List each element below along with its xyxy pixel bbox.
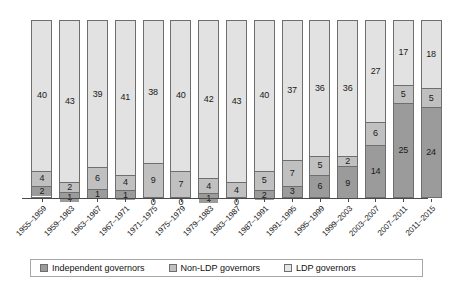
bar-column: 3773 <box>278 20 306 198</box>
tick-mark <box>181 199 182 202</box>
segment-value-label: 7 <box>290 169 295 178</box>
segment-value-label: 5 <box>262 176 267 185</box>
stacked-bar[interactable]: 4070 <box>170 20 191 198</box>
tick-mark <box>292 199 293 202</box>
bar-column: 3961 <box>84 20 112 198</box>
legend-item[interactable]: Independent governors <box>40 263 145 273</box>
segment-ldp: 40 <box>255 21 274 171</box>
stacked-bar[interactable]: 4321 <box>59 20 80 198</box>
bar-column: 17525 <box>389 20 417 198</box>
segment-value-label: 2 <box>345 157 350 166</box>
segment-value-label: 43 <box>232 97 242 106</box>
segment-value-label: 27 <box>371 67 381 76</box>
segment-value-label: 3 <box>290 187 295 196</box>
segment-non-ldp: 5 <box>394 85 413 104</box>
segment-value-label: 43 <box>65 97 75 106</box>
legend-label: Independent governors <box>52 263 145 273</box>
tick-mark <box>125 199 126 202</box>
tick-mark <box>42 199 43 202</box>
segment-value-label: 9 <box>345 179 350 188</box>
segment-ldp: 39 <box>88 21 107 167</box>
legend-label: LDP governors <box>296 263 356 273</box>
segment-value-label: 6 <box>95 174 100 183</box>
stacked-bar[interactable]: 3773 <box>282 20 303 198</box>
x-axis-tick: 2011–2015 <box>417 199 445 255</box>
legend-swatch-nonldp <box>169 264 177 272</box>
segment-independent: 14 <box>366 145 385 197</box>
segment-value-label: 14 <box>371 167 381 176</box>
stacked-bar[interactable]: 4241 <box>198 20 219 198</box>
segment-value-label: 5 <box>429 94 434 103</box>
tick-mark <box>348 199 349 202</box>
stacked-bar[interactable]: 27614 <box>365 20 386 198</box>
bar-column: 3890 <box>139 20 167 198</box>
stacked-bar[interactable]: 4042 <box>31 20 52 198</box>
segment-ldp: 17 <box>394 21 413 85</box>
segment-non-ldp: 5 <box>422 88 441 107</box>
segment-value-label: 18 <box>426 50 436 59</box>
segment-ldp: 36 <box>310 21 329 156</box>
legend-item[interactable]: Non-LDP governors <box>169 263 260 273</box>
stacked-bar[interactable]: 18524 <box>421 20 442 198</box>
segment-value-label: 40 <box>259 91 269 100</box>
bar-column: 4052 <box>250 20 278 198</box>
stacked-bar[interactable]: 3656 <box>309 20 330 198</box>
segment-independent: 24 <box>422 107 441 197</box>
segment-value-label: 41 <box>120 93 130 102</box>
tick-mark <box>375 199 376 202</box>
segment-value-label: 4 <box>234 186 239 195</box>
stacked-bar[interactable]: 4340 <box>226 20 247 198</box>
stacked-bar[interactable]: 4141 <box>115 20 136 198</box>
bar-group: 4042432139614141389040704241434040523773… <box>28 20 446 198</box>
segment-value-label: 38 <box>148 88 158 97</box>
bar-column: 3629 <box>334 20 362 198</box>
segment-ldp: 40 <box>171 21 190 171</box>
tick-mark <box>236 199 237 202</box>
segment-ldp: 42 <box>199 21 218 178</box>
segment-value-label: 2 <box>39 187 44 196</box>
segment-non-ldp: 9 <box>144 163 163 197</box>
segment-value-label: 39 <box>93 90 103 99</box>
tick-mark <box>264 199 265 202</box>
segment-non-ldp: 7 <box>283 160 302 186</box>
segment-value-label: 37 <box>287 86 297 95</box>
segment-non-ldp: 5 <box>255 171 274 190</box>
tick-mark <box>403 199 404 202</box>
segment-non-ldp: 4 <box>116 175 135 190</box>
segment-non-ldp: 4 <box>32 171 51 186</box>
segment-ldp: 27 <box>366 21 385 122</box>
segment-value-label: 24 <box>426 148 436 157</box>
stacked-bar[interactable]: 3961 <box>87 20 108 198</box>
segment-non-ldp: 4 <box>227 182 246 197</box>
bar-column: 4321 <box>56 20 84 198</box>
segment-ldp: 36 <box>338 21 357 156</box>
segment-value-label: 6 <box>317 182 322 191</box>
bar-column: 4141 <box>111 20 139 198</box>
stacked-bar[interactable]: 3629 <box>337 20 358 198</box>
segment-ldp: 38 <box>144 21 163 163</box>
segment-ldp: 37 <box>283 21 302 160</box>
segment-non-ldp: 7 <box>171 171 190 197</box>
segment-non-ldp: 6 <box>366 122 385 144</box>
bar-column: 18524 <box>417 20 445 198</box>
plot-area: 4042432139614141389040704241434040523773… <box>28 20 446 198</box>
segment-value-label: 4 <box>123 178 128 187</box>
segment-value-label: 5 <box>317 161 322 170</box>
tick-mark <box>97 199 98 202</box>
stacked-bar[interactable]: 3890 <box>143 20 164 198</box>
segment-ldp: 18 <box>422 21 441 88</box>
segment-value-label: 6 <box>373 129 378 138</box>
bar-column: 27614 <box>362 20 390 198</box>
bar-column: 4042 <box>28 20 56 198</box>
legend-item[interactable]: LDP governors <box>284 263 356 273</box>
legend-swatch-ind <box>40 264 48 272</box>
bar-column: 3656 <box>306 20 334 198</box>
segment-value-label: 42 <box>204 95 214 104</box>
stacked-bar[interactable]: 17525 <box>393 20 414 198</box>
bar-column: 4070 <box>167 20 195 198</box>
tick-mark <box>70 199 71 202</box>
stacked-bar[interactable]: 4052 <box>254 20 275 198</box>
segment-non-ldp: 4 <box>199 178 218 193</box>
segment-value-label: 4 <box>206 182 211 191</box>
segment-non-ldp: 5 <box>310 156 329 175</box>
